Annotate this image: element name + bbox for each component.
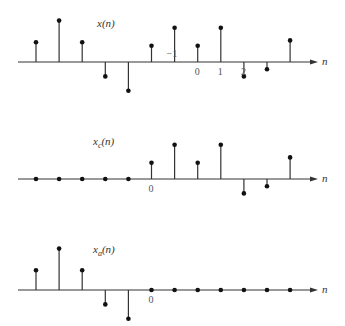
plot-title: xc(n) — [92, 135, 115, 150]
stem-marker — [103, 74, 108, 79]
stem-marker — [288, 38, 293, 43]
stem-plot-3: n0xa(n) — [18, 243, 328, 321]
stem-marker — [265, 184, 270, 189]
stem-marker — [172, 288, 177, 293]
stem-marker — [57, 18, 62, 23]
stem-marker — [242, 191, 247, 196]
tick-label: 0 — [195, 66, 200, 77]
plot-title: xa(n) — [92, 243, 115, 258]
stem-marker — [126, 89, 131, 94]
stem-marker — [34, 268, 39, 273]
stem-marker — [80, 268, 85, 273]
axis-arrow-icon — [310, 288, 318, 293]
stem-plot-2: n0xc(n) — [18, 135, 328, 196]
stem-marker — [149, 161, 154, 166]
tick-label: 2 — [241, 66, 246, 77]
stem-marker — [219, 26, 224, 31]
stem-marker — [265, 67, 270, 72]
stem-marker — [34, 177, 39, 182]
axis-arrow-icon — [310, 177, 318, 182]
stem-marker — [288, 288, 293, 293]
axis-arrow-icon — [310, 60, 318, 65]
tick-label: −1 — [167, 48, 178, 59]
stem-marker — [57, 246, 62, 251]
stem-marker — [149, 288, 154, 293]
stem-marker — [103, 177, 108, 182]
axis-label: n — [322, 283, 328, 295]
stem-marker — [195, 161, 200, 166]
stem-marker — [172, 143, 177, 148]
tick-label: 1 — [218, 66, 223, 77]
plot-title: x(n) — [96, 17, 115, 30]
tick-label: 0 — [149, 294, 154, 305]
stem-plot-1: n−1012x(n) — [18, 17, 328, 93]
stem-marker — [288, 155, 293, 160]
stem-marker — [242, 288, 247, 293]
stem-marker — [219, 288, 224, 293]
tick-label: 0 — [149, 183, 154, 194]
stem-marker — [195, 44, 200, 49]
stem-marker — [126, 317, 131, 322]
stem-marker — [80, 40, 85, 45]
stem-plots-figure: n−1012x(n)n0xc(n)n0xa(n) — [0, 0, 345, 326]
stem-marker — [34, 40, 39, 45]
stem-marker — [172, 26, 177, 31]
stem-marker — [103, 302, 108, 307]
stem-marker — [80, 177, 85, 182]
stem-marker — [195, 288, 200, 293]
stem-marker — [219, 143, 224, 148]
axis-label: n — [322, 172, 328, 184]
stem-marker — [126, 177, 131, 182]
axis-label: n — [322, 55, 328, 67]
stem-marker — [57, 177, 62, 182]
stem-marker — [265, 288, 270, 293]
stem-marker — [149, 44, 154, 49]
